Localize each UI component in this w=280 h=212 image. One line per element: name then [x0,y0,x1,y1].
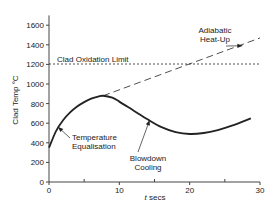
x-tick-label: 20 [185,186,194,195]
y-axis-label: Clad Temp °C [11,75,20,125]
chart: 020040060080010001200140016000102030 Cla… [0,0,280,212]
adiabatic-label-line1: Adiabatic [199,26,232,35]
x-tick-label: 10 [115,186,124,195]
y-tick-label: 1400 [26,41,44,50]
x-tick-label: 30 [256,186,265,195]
y-tick-label: 400 [31,139,45,148]
blowdown-label-line1: Blowdown [130,154,166,163]
y-tick-label: 1600 [26,21,44,30]
equalisation-label-line2: Equalisation [72,142,116,151]
blowdown-arrow [138,120,150,152]
annotations: Clad Oxidation Limit Adiabatic Heat-Up T… [11,26,242,202]
adiabatic-label-line2: Heat-Up [200,35,230,44]
y-tick-label: 600 [31,119,45,128]
equalisation-label-line1: Temperature [72,133,117,142]
y-tick-label: 1200 [26,60,44,69]
y-tick-label: 800 [31,100,45,109]
y-tick-label: 0 [40,178,45,187]
oxidation-limit-label: Clad Oxidation Limit [57,55,129,64]
adiabatic-line [103,38,260,96]
arrowhead-icon [146,120,150,125]
y-tick-label: 1000 [26,80,44,89]
y-tick-label: 200 [31,158,45,167]
x-axis-label: t secs [145,193,166,202]
blowdown-label-line2: Cooling [134,163,161,172]
x-tick-label: 0 [47,186,52,195]
